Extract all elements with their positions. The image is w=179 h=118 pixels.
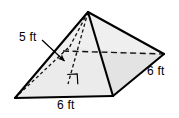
pyramid-figure: 5 ft 6 ft 6 ft (0, 0, 179, 118)
label-base-edge: 6 ft (57, 99, 74, 111)
label-slant-height: 5 ft (19, 31, 36, 43)
label-lateral-edge: 6 ft (147, 65, 164, 77)
pyramid-drawing (0, 0, 179, 118)
